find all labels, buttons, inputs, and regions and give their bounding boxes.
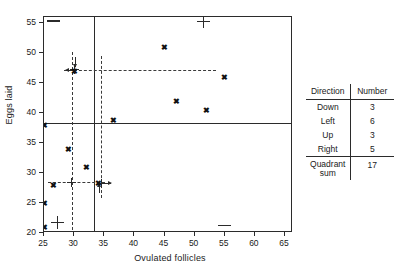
table-row: Up3 [306, 128, 394, 142]
cell-direction: Right [306, 142, 350, 157]
arrow-down-annotation [75, 57, 76, 67]
x-tick [164, 232, 165, 236]
x-tick [133, 232, 134, 236]
median-line-horizontal [44, 123, 291, 124]
table-header-row: Direction Number [306, 84, 394, 100]
cross-marker [197, 17, 210, 28]
data-point: ✖ [65, 146, 72, 153]
x-tick [254, 232, 255, 236]
data-point: ✖ [95, 180, 102, 187]
cell-quadrant-sum-label: Quadrantsum [306, 157, 350, 180]
y-tick [39, 232, 43, 233]
x-tick-label: 45 [152, 238, 176, 248]
x-tick [43, 232, 44, 236]
data-point: ✖ [161, 44, 168, 51]
y-tick-label: 35 [12, 137, 36, 147]
data-point: ✖ [50, 182, 57, 189]
y-tick-label: 40 [12, 107, 36, 117]
chart-area: Eggs laid Ovulated follicles 25303540455… [0, 0, 300, 274]
plot-frame: ✖✖✖✖✖✖✖✖✖✖✖✖✖✖ [43, 16, 292, 232]
y-tick-label: 25 [12, 197, 36, 207]
data-point: ✖ [282, 17, 289, 18]
cross-marker [67, 178, 76, 187]
x-tick [103, 232, 104, 236]
x-tick-label: 40 [121, 238, 145, 248]
x-tick [284, 232, 285, 236]
table-row-quadrant-sum: Quadrantsum17 [306, 157, 394, 180]
x-tick-label: 25 [31, 238, 55, 248]
table-row: Down3 [306, 100, 394, 115]
data-point: ✖ [221, 74, 228, 81]
quadrant-sum-label-line2: sum [309, 169, 347, 178]
data-point: ✖ [83, 164, 90, 171]
header-number: Number [350, 84, 394, 100]
table-row: Right5 [306, 142, 394, 157]
x-tick [224, 232, 225, 236]
cell-direction: Left [306, 114, 350, 128]
data-point: ✖ [44, 224, 48, 231]
x-tick-label: 60 [242, 238, 266, 248]
hinge-line-horizontal-upper [64, 70, 216, 71]
data-point: ✖ [71, 68, 78, 75]
dash-marker [47, 20, 60, 22]
hinge-line-vertical-upper [101, 56, 102, 198]
x-axis-title: Ovulated follicles [60, 253, 280, 263]
quadrant-summary-table: Direction Number Down3Left6Up3Right5Quad… [306, 84, 394, 180]
table-row: Left6 [306, 114, 394, 128]
x-tick [73, 232, 74, 236]
dash-marker [218, 225, 231, 227]
cell-direction: Up [306, 128, 350, 142]
y-tick-label: 30 [12, 167, 36, 177]
data-point: ✖ [203, 107, 210, 114]
x-tick-label: 35 [91, 238, 115, 248]
scatter-plot-figure: Eggs laid Ovulated follicles 25303540455… [0, 0, 400, 274]
y-tick-label: 55 [12, 17, 36, 27]
cell-number: 6 [350, 114, 394, 128]
cell-direction: Down [306, 100, 350, 115]
x-tick-label: 55 [212, 238, 236, 248]
x-tick-label: 30 [61, 238, 85, 248]
data-point: ✖ [110, 117, 117, 124]
y-tick-label: 50 [12, 47, 36, 57]
x-tick-label: 50 [182, 238, 206, 248]
cell-number: 3 [350, 100, 394, 115]
x-tick [194, 232, 195, 236]
x-tick-label: 65 [272, 238, 296, 248]
data-point: ✖ [44, 122, 48, 129]
data-point: ✖ [44, 200, 48, 207]
y-tick-label: 45 [12, 77, 36, 87]
cell-number: 5 [350, 142, 394, 157]
data-point: ✖ [173, 98, 180, 105]
header-direction: Direction [306, 84, 350, 100]
y-tick-label: 20 [12, 227, 36, 237]
arrow-right-annotation [102, 183, 111, 184]
cross-marker [51, 216, 64, 229]
hinge-line-vertical-lower [72, 52, 73, 230]
cell-number: 3 [350, 128, 394, 142]
plot-inner: ✖✖✖✖✖✖✖✖✖✖✖✖✖✖ [44, 17, 291, 231]
cell-quadrant-sum-number: 17 [350, 157, 394, 180]
